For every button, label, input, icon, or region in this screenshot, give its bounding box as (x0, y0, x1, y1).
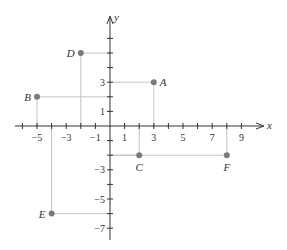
x-tick-label: 7 (210, 132, 215, 143)
x-tick-label: 9 (239, 132, 244, 143)
point-label: D (66, 47, 75, 59)
x-tick-label: −3 (61, 132, 72, 143)
x-axis-label: x (266, 119, 272, 131)
point-a: A (151, 76, 167, 88)
x-tick-label: 5 (181, 132, 186, 143)
tick-marks (22, 38, 241, 228)
y-tick-label: −5 (94, 194, 105, 205)
data-points: ABCDEF (24, 47, 230, 220)
coordinate-plane: xy −5−3−11357931−3−5−7 ABCDEF (0, 0, 287, 250)
y-tick-label: −7 (94, 223, 105, 234)
point-label: E (38, 208, 46, 220)
y-axis-label: y (113, 11, 119, 23)
y-tick-label: 1 (100, 106, 105, 117)
point-marker (136, 152, 142, 158)
x-tick-label: −5 (32, 132, 43, 143)
point-marker (151, 79, 157, 85)
point-marker (49, 211, 55, 217)
point-label: F (222, 161, 230, 173)
x-tick-label: −1 (90, 132, 101, 143)
point-label: C (136, 161, 144, 173)
point-marker (224, 152, 230, 158)
point-marker (34, 94, 40, 100)
x-tick-label: 1 (122, 132, 127, 143)
point-label: A (159, 76, 167, 88)
y-tick-label: −3 (94, 164, 105, 175)
point-marker (78, 50, 84, 56)
x-tick-label: 3 (151, 132, 156, 143)
axes: xy (15, 11, 272, 240)
point-b: B (24, 91, 40, 103)
point-label: B (24, 91, 31, 103)
y-tick-label: 3 (100, 77, 105, 88)
